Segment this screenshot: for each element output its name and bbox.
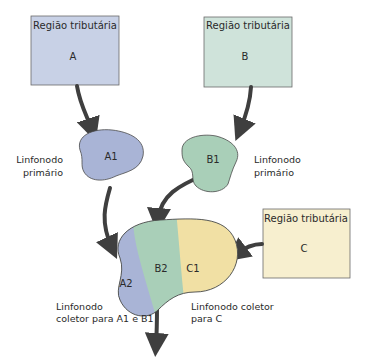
arrow-a-to-a1 [77, 86, 92, 130]
node-b1-caption-line2: primário [254, 167, 294, 178]
lymph-node-b1: B1 Linfonodo primário [182, 135, 301, 192]
segment-a2-label: A2 [119, 278, 132, 289]
segment-b2-label: B2 [154, 263, 167, 274]
collector-right-caption-line1: Linfonodo coletor [191, 301, 274, 312]
lymph-node-diagram: Região tributária A Região tributária B … [0, 0, 371, 359]
arrow-b-to-b1 [240, 87, 251, 130]
region-box-b: Região tributária B [204, 17, 292, 87]
node-a1-caption-line1: Linfonodo [16, 154, 63, 165]
region-box-a: Região tributária A [31, 16, 119, 85]
collector-right-caption-line2: para C [191, 313, 223, 324]
region-box-c: Região tributária C [263, 209, 350, 278]
collector-left-caption-line1: Linfonodo [56, 301, 103, 312]
segment-c1-label: C1 [186, 263, 199, 274]
lymph-node-a1: A1 Linfonodo primário [16, 130, 143, 180]
collector-left-caption-line2: coletor para A1 e B1 [56, 313, 154, 324]
node-b1-caption-line1: Linfonodo [254, 154, 301, 165]
region-c-title: Região tributária [264, 213, 348, 224]
arrow-c-to-collector [236, 244, 262, 254]
region-a-title: Região tributária [33, 20, 117, 31]
region-b-letter: B [242, 51, 249, 62]
region-c-letter: C [301, 243, 308, 254]
region-a-letter: A [70, 51, 77, 62]
region-b-title: Região tributária [206, 20, 290, 31]
node-b1-label: B1 [206, 154, 219, 165]
arrow-a1-to-collector [105, 188, 112, 248]
node-a1-caption-line2: primário [23, 167, 63, 178]
node-a1-label: A1 [104, 151, 117, 162]
